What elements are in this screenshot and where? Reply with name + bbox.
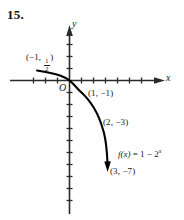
point-label-minus1-half: (−1, 12) [26, 52, 53, 73]
fraction-denominator: 2 [44, 66, 50, 73]
point-label-1-minus1: (1, −1) [88, 88, 113, 98]
function-name: f(x) [118, 149, 131, 159]
function-body: 1 − 2 [140, 149, 159, 159]
function-equals: = [131, 149, 141, 159]
point-label-2-minus3: (2, −3) [103, 117, 128, 127]
fraction-one-half: 12 [44, 58, 50, 73]
fraction-numerator: 1 [44, 58, 50, 65]
function-exponent: x [159, 148, 162, 154]
point-label-3-minus7: (3, −7) [110, 166, 135, 176]
function-equation-label: f(x) = 1 − 2x [118, 148, 161, 159]
exercise-figure: 15. [0, 0, 184, 220]
point-label-a-open: (−1, [26, 52, 44, 62]
x-axis-label: x [166, 72, 170, 83]
point-label-a-close: ) [50, 52, 53, 62]
coordinate-plot [0, 0, 184, 220]
x-axis-arrow-icon [154, 77, 165, 84]
y-axis-label: y [72, 18, 76, 29]
origin-label: O [59, 82, 66, 93]
